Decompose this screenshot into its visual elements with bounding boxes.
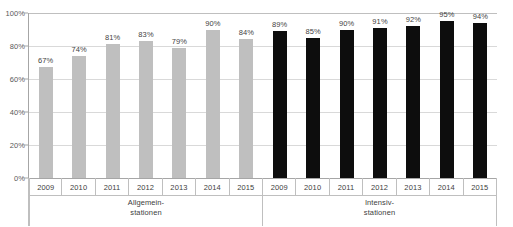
bar-data-label: 81% bbox=[105, 33, 120, 42]
bar-data-label: 91% bbox=[372, 17, 387, 26]
category-tick-label: 2011 bbox=[96, 178, 129, 196]
bar-data-label: 94% bbox=[473, 12, 488, 21]
category-tick-label: 2012 bbox=[363, 178, 396, 196]
bar bbox=[373, 28, 387, 178]
bar-data-label: 84% bbox=[239, 28, 254, 37]
y-tick-label: 20% bbox=[10, 141, 25, 150]
bar-chart: 0%20%40%60%80%100% 67%74%81%83%79%90%84%… bbox=[0, 0, 513, 227]
bar bbox=[172, 48, 186, 178]
bar-data-label: 67% bbox=[38, 56, 53, 65]
bar-data-label: 95% bbox=[439, 10, 454, 19]
bar bbox=[139, 41, 153, 178]
bar-data-label: 92% bbox=[406, 15, 421, 24]
category-tick-label: 2010 bbox=[296, 178, 329, 196]
y-tick-mark bbox=[24, 112, 28, 113]
y-tick-label: 40% bbox=[10, 108, 25, 117]
category-tick-label: 2013 bbox=[397, 178, 430, 196]
category-tick-label: 2013 bbox=[163, 178, 196, 196]
bar-data-label: 85% bbox=[305, 27, 320, 36]
category-tick-label: 2010 bbox=[62, 178, 95, 196]
y-axis: 0%20%40%60%80%100% bbox=[0, 0, 28, 227]
category-tick-label: 2012 bbox=[129, 178, 162, 196]
bar bbox=[306, 38, 320, 178]
group-label-axis: Allgemein-stationenIntensiv-stationen bbox=[29, 196, 497, 226]
category-tick-label: 2011 bbox=[330, 178, 363, 196]
y-tick-label: 100% bbox=[5, 9, 25, 18]
category-tick-label: 2015 bbox=[464, 178, 497, 196]
bar-data-label: 89% bbox=[272, 20, 287, 29]
bar bbox=[39, 67, 53, 178]
bars-layer: 67%74%81%83%79%90%84%89%85%90%91%92%95%9… bbox=[29, 13, 497, 178]
group-label-line: stationen bbox=[364, 208, 395, 218]
bar-data-label: 83% bbox=[138, 30, 153, 39]
y-tick-mark bbox=[24, 145, 28, 146]
bar bbox=[406, 26, 420, 178]
y-tick-label: 80% bbox=[10, 42, 25, 51]
bar bbox=[206, 30, 220, 179]
y-tick-label: 60% bbox=[10, 75, 25, 84]
bar bbox=[72, 56, 86, 178]
group-label-line: Allgemein- bbox=[128, 198, 164, 208]
category-axis: 2009201020112012201320142015200920102011… bbox=[29, 178, 497, 196]
category-tick-label: 2014 bbox=[430, 178, 463, 196]
bar bbox=[440, 21, 454, 178]
bar bbox=[340, 30, 354, 179]
bar bbox=[273, 31, 287, 178]
y-tick-mark bbox=[24, 79, 28, 80]
y-tick-mark bbox=[24, 13, 28, 14]
category-tick-label: 2015 bbox=[230, 178, 263, 196]
plot-area: 67%74%81%83%79%90%84%89%85%90%91%92%95%9… bbox=[29, 13, 497, 178]
group-label-line: Intensiv- bbox=[365, 198, 394, 208]
category-tick-label: 2009 bbox=[263, 178, 296, 196]
bar-data-label: 74% bbox=[71, 45, 86, 54]
bar-data-label: 90% bbox=[205, 19, 220, 28]
y-tick-mark bbox=[24, 46, 28, 47]
category-tick-label: 2009 bbox=[29, 178, 62, 196]
bar-data-label: 79% bbox=[172, 37, 187, 46]
group-label-line: stationen bbox=[130, 208, 161, 218]
group-label: Allgemein-stationen bbox=[29, 196, 263, 226]
group-label: Intensiv-stationen bbox=[263, 196, 497, 226]
bar-data-label: 90% bbox=[339, 19, 354, 28]
category-tick-label: 2014 bbox=[196, 178, 229, 196]
bar bbox=[473, 23, 487, 178]
y-tick-mark bbox=[24, 178, 28, 179]
bar bbox=[239, 39, 253, 178]
bar bbox=[106, 44, 120, 178]
